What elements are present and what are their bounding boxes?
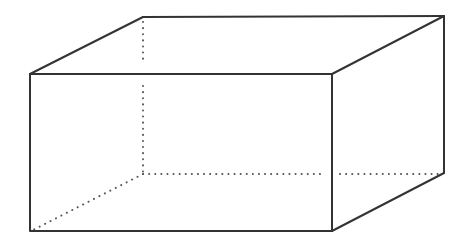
hidden-edges [33,22,440,230]
visible-edges [30,16,444,231]
hidden-edge-bottom-left-depth [33,174,143,230]
edge-top-right-depth [332,16,444,74]
front-face [30,74,332,231]
cuboid-diagram [0,0,469,246]
edge-top-left-depth [30,17,143,74]
edge-back-top [143,16,444,17]
edge-bottom-right-depth [332,173,444,231]
